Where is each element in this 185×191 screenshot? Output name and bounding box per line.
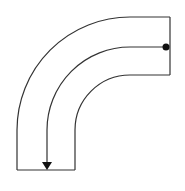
streamline [47, 47, 166, 163]
streamline-start-dot-icon [163, 44, 170, 51]
arrow-down-icon [42, 162, 52, 170]
pipe-bend-diagram [0, 0, 185, 191]
inner-wall [75, 75, 170, 170]
outer-wall [17, 17, 170, 170]
